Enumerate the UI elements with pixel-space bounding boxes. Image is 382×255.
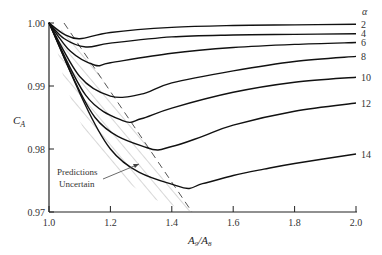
x-tick-label: 1.0 — [43, 217, 56, 228]
x-tick-label: 2.0 — [350, 217, 363, 228]
series-label-alpha-10: 10 — [361, 72, 371, 83]
x-title-slash: /A — [197, 234, 208, 246]
series-label-alpha-8: 8 — [361, 51, 366, 62]
x-title-sub8: 8 — [208, 240, 212, 248]
x-axis-title: A9/A8 — [187, 234, 212, 248]
y-tick-label: 0.99 — [28, 81, 46, 92]
series-label-alpha-12: 12 — [361, 98, 371, 109]
series-curve-alpha-2 — [49, 23, 356, 39]
y-tick-label: 0.98 — [28, 144, 46, 155]
annotation-line-2: Uncertain — [59, 179, 95, 189]
series-label-alpha-14: 14 — [361, 149, 371, 160]
y-tick-label: 1.00 — [28, 18, 46, 29]
y-tick-label: 0.97 — [28, 207, 46, 218]
x-tick-label: 1.6 — [227, 217, 240, 228]
legend-title: α — [362, 6, 368, 17]
y-axis-title-sub: A — [19, 120, 25, 129]
x-tick-label: 1.8 — [288, 217, 301, 228]
annotation-line-1: Predictions — [57, 167, 98, 177]
x-axis-ticks: 1.01.21.41.61.82.0 — [43, 206, 363, 228]
series-curves — [49, 23, 356, 189]
series-labels: 2468101214 — [361, 19, 371, 160]
y-axis-title: CA — [13, 114, 25, 129]
x-tick-label: 1.4 — [166, 217, 179, 228]
series-label-alpha-6: 6 — [361, 37, 366, 48]
x-tick-label: 1.2 — [104, 217, 117, 228]
y-axis-ticks: 1.000.990.980.97 — [28, 18, 55, 218]
chart-canvas: 1.000.990.980.97 1.01.21.41.61.82.0 2468… — [0, 0, 382, 255]
